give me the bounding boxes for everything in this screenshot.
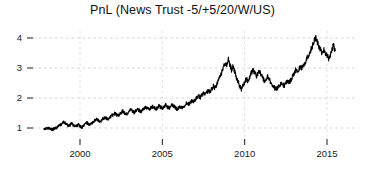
x-tick-label: 2000 (69, 148, 90, 159)
gridlines (33, 31, 358, 137)
x-tick-label: 2005 (152, 148, 173, 159)
data-line-group (44, 36, 335, 131)
y-tick-label: 3 (17, 62, 22, 73)
pnl-chart: PnL (News Trust -5/+5/20/W/US) 1234 2000… (0, 0, 365, 173)
x-axis-ticks: 2000200520102015 (69, 139, 337, 159)
x-tick-label: 2010 (234, 148, 255, 159)
y-axis-ticks: 1234 (17, 32, 33, 133)
y-tick-label: 2 (17, 92, 22, 103)
y-tick-label: 1 (17, 122, 22, 133)
pnl-line-series (44, 36, 335, 131)
x-tick-label: 2015 (316, 148, 337, 159)
chart-plot-area: 1234 2000200520102015 (0, 0, 365, 173)
y-tick-label: 4 (17, 32, 22, 43)
